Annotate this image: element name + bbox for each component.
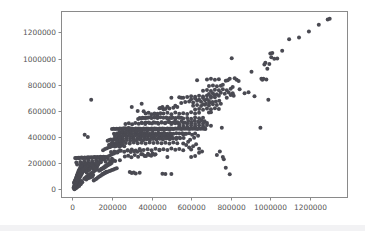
- scatter-point: [215, 84, 219, 88]
- scatter-point: [232, 94, 236, 98]
- scatter-point: [86, 135, 90, 139]
- scatter-point: [197, 123, 201, 127]
- scatter-plot-figure: 020000040000060000080000010000001200000 …: [0, 0, 365, 231]
- scatter-point: [137, 122, 141, 126]
- scatter-points-layer: [72, 17, 332, 191]
- scatter-point: [177, 116, 181, 120]
- scatter-point: [130, 105, 134, 109]
- scatter-point: [127, 121, 131, 125]
- scatter-point: [209, 77, 213, 81]
- scatter-point: [238, 87, 242, 91]
- scatter-point: [139, 149, 143, 153]
- scatter-point: [201, 95, 205, 99]
- scatter-point: [267, 62, 271, 66]
- scatter-point: [181, 111, 185, 115]
- y-tick-label: 1000000: [23, 55, 56, 64]
- scatter-point: [153, 115, 157, 119]
- scatter-point: [189, 110, 193, 114]
- scatter-point: [211, 91, 215, 95]
- scatter-point: [169, 116, 173, 120]
- scatter-point: [173, 110, 177, 114]
- scatter-point: [252, 94, 256, 98]
- scatter-point: [237, 79, 241, 83]
- scatter-point: [181, 124, 185, 128]
- scatter-point: [205, 88, 209, 92]
- scatter-point: [135, 150, 139, 154]
- scatter-point: [136, 109, 140, 113]
- scatter-point: [228, 172, 232, 176]
- scatter-point: [163, 141, 167, 145]
- scatter-point: [225, 96, 229, 100]
- scatter-point: [115, 166, 119, 170]
- scatter-point: [170, 127, 174, 131]
- scatter-point: [132, 170, 136, 174]
- scatter-point: [165, 111, 169, 115]
- scatter-point: [136, 117, 140, 121]
- scatter-point: [188, 138, 192, 142]
- scatter-point: [205, 97, 209, 101]
- scatter-point: [80, 180, 84, 184]
- scatter-point: [145, 137, 149, 141]
- scatter-point: [207, 92, 211, 96]
- x-tick-label: 200000: [98, 203, 127, 212]
- scatter-point: [328, 17, 332, 21]
- scatter-point: [201, 108, 205, 112]
- scatter-point: [153, 153, 157, 157]
- scatter-point: [181, 142, 185, 146]
- scatter-point: [141, 138, 145, 142]
- scatter-point: [222, 157, 226, 161]
- scatter-point: [144, 141, 148, 145]
- scatter-point: [179, 101, 183, 105]
- scatter-point: [193, 131, 197, 135]
- x-tick-label: 600000: [177, 203, 206, 212]
- y-tick-label: 400000: [28, 133, 57, 142]
- scatter-point: [161, 112, 165, 116]
- scatter-point: [125, 138, 129, 142]
- x-tick-label: 1200000: [294, 203, 327, 212]
- scatter-point: [258, 126, 262, 130]
- scatter-point: [215, 153, 219, 157]
- scatter-point: [185, 112, 189, 116]
- scatter-point: [133, 121, 137, 125]
- scatter-point: [169, 147, 173, 151]
- scatter-point: [193, 119, 197, 123]
- scatter-point: [186, 119, 190, 123]
- scatter-point: [317, 23, 321, 27]
- scatter-point: [211, 83, 215, 87]
- x-tick-label: 400000: [138, 203, 167, 212]
- scatter-point: [205, 78, 209, 82]
- scatter-point: [197, 97, 201, 101]
- scatter-point: [211, 100, 215, 104]
- scatter-point: [161, 137, 165, 141]
- scatter-point: [247, 90, 251, 94]
- scatter-point: [131, 138, 135, 142]
- scatter-point: [213, 78, 217, 82]
- scatter-point: [166, 120, 170, 124]
- scatter-point: [205, 107, 209, 111]
- scatter-point: [221, 83, 225, 87]
- scatter-point: [91, 173, 95, 177]
- scatter-point: [165, 155, 169, 159]
- scatter-point: [161, 147, 165, 151]
- scatter-point: [83, 133, 87, 137]
- scatter-point: [177, 147, 181, 151]
- scatter-point: [231, 85, 235, 89]
- scatter-point: [280, 49, 284, 53]
- scatter-point: [220, 126, 224, 130]
- scatter-point: [197, 107, 201, 111]
- scatter-point: [185, 95, 189, 99]
- scatter-point: [140, 102, 144, 106]
- scatter-point: [193, 95, 197, 99]
- scatter-point: [193, 154, 197, 158]
- scatter-point: [159, 141, 163, 145]
- x-tick-label: 0: [70, 203, 75, 212]
- scatter-point: [213, 106, 217, 110]
- scatter-point: [138, 171, 142, 175]
- x-tick-label: 800000: [217, 203, 246, 212]
- y-axis-tick-labels: 020000040000060000080000010000001200000: [23, 28, 56, 194]
- scatter-point: [177, 125, 181, 129]
- scatter-point: [99, 158, 103, 162]
- scatter-point: [129, 150, 133, 154]
- scatter-point: [94, 167, 98, 171]
- scatter-point: [297, 35, 301, 39]
